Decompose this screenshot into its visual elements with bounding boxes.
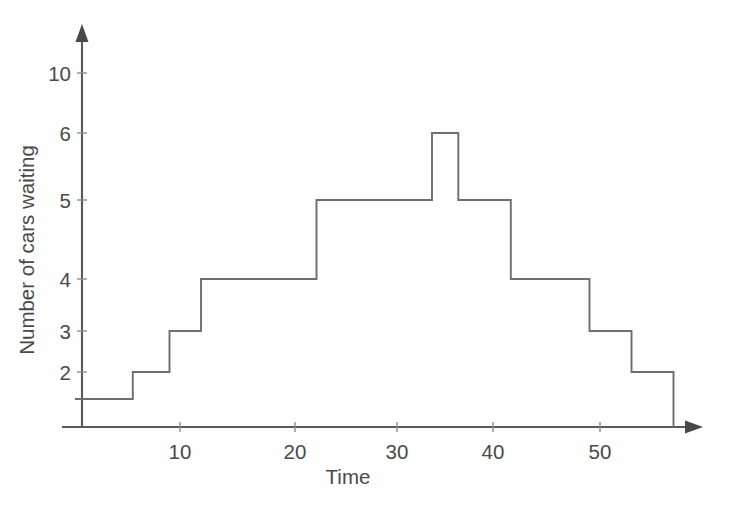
step-series-line [75, 133, 674, 427]
y-axis-arrowhead [76, 24, 89, 42]
chart-container: 10 6 5 4 3 2 10 20 30 40 50 Time Number … [0, 0, 731, 514]
y-tick-label-3: 3 [60, 320, 71, 343]
y-tick-label-2: 2 [60, 361, 71, 384]
step-chart: 10 6 5 4 3 2 10 20 30 40 50 Time Number … [0, 0, 731, 514]
y-tick-label-10: 10 [48, 62, 71, 85]
x-tick-label-10: 10 [169, 440, 192, 463]
y-tick-label-4: 4 [60, 268, 71, 291]
y-tick-label-5: 5 [60, 189, 71, 212]
x-tick-label-40: 40 [482, 440, 505, 463]
x-tick-label-20: 20 [284, 440, 307, 463]
x-axis [62, 421, 703, 434]
x-axis-title: Time [326, 465, 371, 488]
y-axis-title: Number of cars waiting [15, 145, 38, 355]
x-tick-label-30: 30 [386, 440, 409, 463]
x-axis-arrowhead [685, 421, 703, 434]
y-tick-label-6: 6 [60, 122, 71, 145]
y-axis [76, 24, 89, 427]
x-tick-label-50: 50 [589, 440, 612, 463]
